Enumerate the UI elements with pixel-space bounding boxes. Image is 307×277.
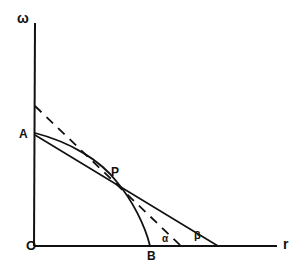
dashed-line xyxy=(35,106,181,246)
curve-apb xyxy=(35,133,150,246)
solid-line xyxy=(35,135,218,246)
angle-alpha-label: α xyxy=(162,233,168,245)
angle-beta-label: β xyxy=(194,229,201,241)
x-axis-label: r xyxy=(283,238,288,250)
point-a-label: A xyxy=(19,128,28,140)
point-b-label: B xyxy=(147,250,156,262)
diagram-svg xyxy=(0,0,307,277)
origin-label: O xyxy=(26,240,36,252)
y-axis xyxy=(34,23,35,246)
diagram-canvas: ω r O A P B α β xyxy=(0,0,307,277)
y-axis-label: ω xyxy=(17,12,29,24)
point-p-label: P xyxy=(111,166,119,178)
